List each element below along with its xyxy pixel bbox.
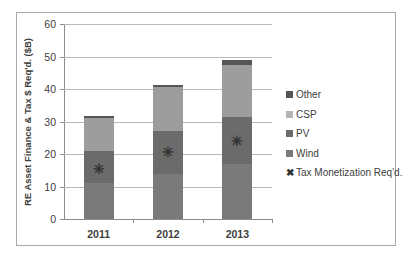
legend-label-other: Other: [296, 89, 321, 100]
bar-segment-wind: [153, 174, 183, 220]
legend-item-other: Other: [286, 85, 402, 105]
legend-label-wind: Wind: [296, 148, 319, 159]
y-tick-label: 0: [32, 213, 56, 225]
bar-2013: [222, 24, 252, 219]
bar-segment-wind: [222, 164, 252, 219]
legend-swatch-pv: [286, 130, 293, 137]
bar-segment-other: [84, 116, 114, 118]
y-tick-label: 30: [32, 116, 56, 128]
y-tick-label: 50: [32, 51, 56, 63]
legend-swatch-wind: [286, 150, 293, 157]
bar-segment-other: [222, 60, 252, 64]
y-tick: [60, 89, 64, 90]
bar-segment-other: [153, 85, 183, 87]
bar-2011: [84, 24, 114, 219]
y-tick: [60, 24, 64, 25]
legend-label-pv: PV: [296, 128, 309, 139]
tax-monetization-marker-icon: ✳: [230, 134, 244, 148]
y-tick-label: 40: [32, 83, 56, 95]
y-axis-label: RE Asset Finance & Tax $ Req'd. ($B): [22, 38, 33, 206]
legend-swatch-other: [286, 91, 293, 98]
bar-segment-csp: [222, 65, 252, 117]
bar-segment-csp: [153, 87, 183, 131]
legend-item-wind: Wind: [286, 144, 402, 164]
x-marker-icon: ✖: [286, 167, 294, 178]
y-tick: [60, 154, 64, 155]
legend-swatch-csp: [286, 111, 293, 118]
x-tick: [272, 219, 273, 223]
x-tick-label: 2012: [148, 228, 188, 240]
y-tick: [60, 57, 64, 58]
plot-area: 0102030405060✳2011✳2012✳2013: [64, 24, 272, 219]
legend: Other CSP PV Wind ✖ Tax Monetization Req…: [286, 85, 402, 183]
bar-segment-csp: [84, 118, 114, 151]
x-axis-line: [60, 219, 272, 220]
x-tick: [133, 219, 134, 223]
bar-segment-wind: [84, 183, 114, 219]
legend-label-tax-monetization: Tax Monetization Req'd.: [296, 167, 402, 178]
legend-label-csp: CSP: [296, 109, 317, 120]
y-tick-label: 10: [32, 181, 56, 193]
y-tick-label: 60: [32, 18, 56, 30]
x-tick: [203, 219, 204, 223]
x-tick-label: 2011: [79, 228, 119, 240]
legend-item-tax-monetization: ✖ Tax Monetization Req'd.: [286, 163, 402, 183]
bar-2012: [153, 24, 183, 219]
y-tick: [60, 187, 64, 188]
tax-monetization-marker-icon: ✳: [92, 162, 106, 176]
y-tick: [60, 122, 64, 123]
y-tick-label: 20: [32, 148, 56, 160]
legend-item-pv: PV: [286, 124, 402, 144]
x-tick-label: 2013: [217, 228, 257, 240]
legend-item-csp: CSP: [286, 105, 402, 125]
tax-monetization-marker-icon: ✳: [161, 145, 175, 159]
